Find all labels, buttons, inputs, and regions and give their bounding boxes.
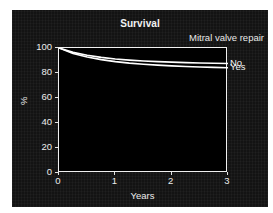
survival-figure: Survival Mitral valve repair % 020406080… — [0, 0, 273, 213]
y-tick-mark — [55, 47, 58, 48]
y-tick-label: 40 — [22, 117, 52, 127]
x-tick-label: 0 — [48, 176, 68, 186]
y-tick-label: 80 — [22, 67, 52, 77]
survival-curve-yes — [59, 48, 228, 68]
curve-label-yes: Yes — [230, 62, 246, 72]
x-tick-mark — [227, 172, 228, 175]
chart-title: Survival — [12, 18, 268, 29]
x-tick-label: 2 — [161, 176, 181, 186]
x-tick-mark — [171, 172, 172, 175]
y-tick-mark — [55, 122, 58, 123]
legend-title: Mitral valve repair — [189, 32, 264, 43]
y-tick-mark — [55, 72, 58, 73]
x-tick-label: 3 — [217, 176, 237, 186]
y-tick-label: 60 — [22, 92, 52, 102]
y-tick-label: 20 — [22, 142, 52, 152]
y-tick-mark — [55, 147, 58, 148]
curves-svg — [59, 48, 228, 173]
x-tick-mark — [58, 172, 59, 175]
x-tick-label: 1 — [104, 176, 124, 186]
x-tick-mark — [114, 172, 115, 175]
y-tick-label: 100 — [22, 42, 52, 52]
chart-panel: Survival Mitral valve repair % 020406080… — [12, 10, 268, 207]
y-tick-mark — [55, 97, 58, 98]
plot-area — [58, 47, 227, 172]
x-axis-label: Years — [58, 190, 227, 201]
